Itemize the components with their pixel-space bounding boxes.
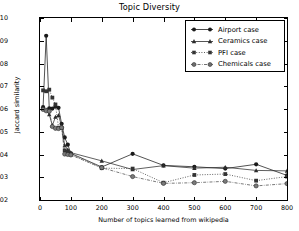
x-tick-mark xyxy=(102,197,103,201)
data-point xyxy=(69,153,73,157)
x-tick-label: 0 xyxy=(38,204,42,212)
y-tick-mark-right xyxy=(284,177,288,178)
y-tick-label: 0.009 xyxy=(0,37,8,45)
legend-label-airport: Airport case xyxy=(214,26,259,34)
y-tick-label: 0.002 xyxy=(0,196,8,204)
y-tick-mark xyxy=(40,177,44,178)
y-tick-label: 0.005 xyxy=(0,128,8,136)
legend-item-ceramics: Ceramics case xyxy=(190,36,280,48)
y-tick-mark-right xyxy=(284,155,288,156)
y-tick-mark-right xyxy=(284,132,288,133)
data-point xyxy=(47,88,51,92)
data-point xyxy=(285,182,287,186)
data-point xyxy=(192,173,196,177)
legend-item-pfi: PFI case xyxy=(190,47,280,59)
x-tick-label: 400 xyxy=(157,204,169,212)
x-tick-mark-top xyxy=(40,18,41,22)
legend-marker-circle-open xyxy=(190,59,214,70)
chart-legend: Airport case Ceramics case PFI case xyxy=(185,20,285,72)
legend-marker-circle xyxy=(190,24,214,35)
data-point xyxy=(60,126,64,130)
y-tick-mark xyxy=(40,132,44,133)
y-tick-label: 0.010 xyxy=(0,14,8,22)
y-tick-label: 0.006 xyxy=(0,105,8,113)
y-tick-label: 0.004 xyxy=(0,151,8,159)
y-tick-mark-right xyxy=(284,200,288,201)
data-point xyxy=(223,172,227,176)
y-tick-mark xyxy=(40,109,44,110)
data-point xyxy=(223,179,227,183)
series-line xyxy=(43,109,287,171)
x-tick-label: 600 xyxy=(219,204,231,212)
data-point xyxy=(192,181,196,185)
data-point xyxy=(47,109,51,113)
x-tick-mark xyxy=(164,197,165,201)
x-tick-mark xyxy=(225,197,226,201)
legend-marker-square xyxy=(190,47,214,58)
data-point xyxy=(56,106,60,110)
data-point xyxy=(100,166,104,170)
x-tick-mark xyxy=(287,197,288,201)
data-point xyxy=(44,34,48,38)
y-tick-mark-right xyxy=(284,86,288,87)
y-tick-mark xyxy=(40,86,44,87)
y-tick-mark xyxy=(40,155,44,156)
data-point xyxy=(254,162,258,166)
x-tick-mark-top xyxy=(287,18,288,22)
x-tick-label: 300 xyxy=(127,204,139,212)
x-tick-mark xyxy=(194,197,195,201)
data-point xyxy=(54,103,58,107)
data-point xyxy=(254,179,258,183)
series-ceramics-case xyxy=(41,106,287,172)
x-tick-mark-top xyxy=(71,18,72,22)
x-tick-mark xyxy=(71,197,72,201)
data-point xyxy=(131,167,135,171)
x-axis-label: Number of topics learned from wikipedia xyxy=(39,216,288,224)
x-tick-mark-top xyxy=(133,18,134,22)
x-tick-label: 700 xyxy=(250,204,262,212)
series-chemicals-case xyxy=(41,107,287,188)
y-axis-label: Jaccard similarity xyxy=(13,50,21,160)
data-point xyxy=(131,152,135,156)
y-tick-mark-right xyxy=(284,109,288,110)
y-tick-label: 0.007 xyxy=(0,82,8,90)
chart-title: Topic Diversity xyxy=(0,2,299,12)
y-tick-label: 0.008 xyxy=(0,60,8,68)
legend-label-pfi: PFI case xyxy=(214,49,246,57)
x-tick-label: 800 xyxy=(281,204,293,212)
data-point xyxy=(131,174,135,178)
x-tick-label: 200 xyxy=(96,204,108,212)
y-tick-label: 0.003 xyxy=(0,173,8,181)
legend-item-chemicals: Chemicals case xyxy=(190,59,280,71)
series-line xyxy=(43,90,287,183)
x-tick-mark-top xyxy=(164,18,165,22)
x-tick-mark-top xyxy=(102,18,103,22)
legend-item-airport: Airport case xyxy=(190,24,280,36)
data-point xyxy=(161,181,165,185)
x-tick-label: 100 xyxy=(65,204,77,212)
x-tick-mark xyxy=(40,197,41,201)
y-tick-mark xyxy=(40,64,44,65)
legend-label-chemicals: Chemicals case xyxy=(214,60,271,68)
x-tick-mark xyxy=(256,197,257,201)
x-tick-mark xyxy=(133,197,134,201)
x-tick-label: 500 xyxy=(188,204,200,212)
data-point xyxy=(50,96,54,100)
series-line xyxy=(43,109,287,185)
legend-marker-triangle xyxy=(190,36,214,47)
y-tick-mark xyxy=(40,41,44,42)
y-tick-mark xyxy=(40,200,44,201)
legend-label-ceramics: Ceramics case xyxy=(214,37,267,45)
chart-figure: Topic Diversity Jaccard similarity Numbe… xyxy=(0,0,299,231)
data-point xyxy=(254,184,258,188)
